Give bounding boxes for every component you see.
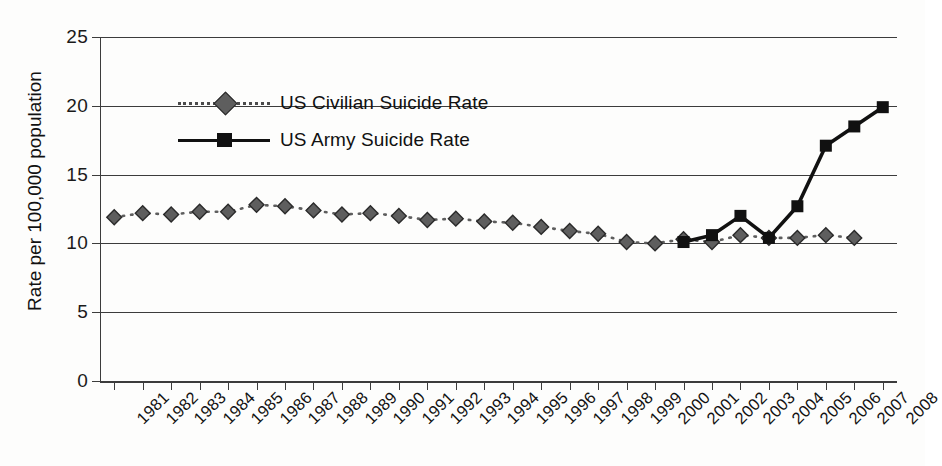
data-point [335,207,350,222]
legend-label-civilian: US Civilian Suicide Rate [270,92,488,114]
data-point [790,230,805,245]
data-point [391,208,406,223]
data-point [847,230,862,245]
data-point [505,215,520,230]
data-point [278,199,293,214]
data-point [135,206,150,221]
square-marker-icon [217,133,232,147]
legend-item-civilian: US Civilian Suicide Rate [178,84,488,121]
legend-swatch-civilian [178,93,270,113]
data-point [818,228,833,243]
legend-item-army: US Army Suicide Rate [178,121,488,158]
chart-legend: US Civilian Suicide Rate US Army Suicide… [178,84,488,158]
data-point [420,213,435,228]
data-point [619,235,634,250]
data-point [848,120,860,132]
data-point [221,204,236,219]
data-point [706,229,718,241]
data-point [306,203,321,218]
data-point [562,224,577,239]
data-point [591,226,606,241]
data-point [534,219,549,234]
data-point [791,200,803,212]
series-us-army-suicide-rate [678,101,889,248]
data-point [448,211,463,226]
data-point [192,204,207,219]
data-point [877,101,889,113]
data-point [477,214,492,229]
data-point [249,197,264,212]
data-point [363,206,378,221]
data-point [648,236,663,251]
data-point [820,140,832,152]
data-point [734,210,746,222]
data-point [678,236,690,248]
data-point [733,228,748,243]
data-point [107,210,122,225]
data-point [763,232,775,244]
legend-swatch-army [178,130,270,150]
legend-label-army: US Army Suicide Rate [270,129,470,151]
diamond-marker-icon [213,91,237,115]
data-point [164,207,179,222]
